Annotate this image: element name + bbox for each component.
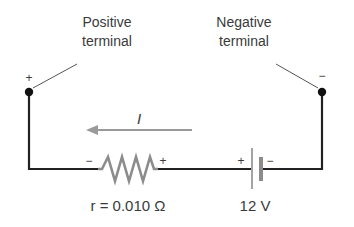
- resistor-zigzag: [98, 157, 158, 181]
- resistor-minus-sign: −: [85, 154, 92, 168]
- battery-minus-sign: −: [266, 154, 273, 168]
- negative-terminal-sign: −: [318, 69, 325, 83]
- positive-terminal-sign: +: [25, 71, 32, 85]
- current-label: I: [137, 110, 141, 127]
- current-arrow-head: [86, 125, 98, 135]
- positive-terminal-dot: [25, 88, 33, 96]
- negative-terminal-label-line2: terminal: [219, 33, 269, 49]
- circuit-diagram: Positive terminal Negative terminal + − …: [0, 0, 354, 227]
- positive-terminal-label-line1: Positive: [82, 14, 131, 30]
- positive-leader-line: [33, 64, 77, 88]
- positive-terminal-label-line2: terminal: [82, 33, 132, 49]
- negative-terminal-label-line1: Negative: [216, 14, 271, 30]
- resistor-label: r = 0.010 Ω: [90, 197, 165, 214]
- battery-label: 12 V: [240, 197, 271, 214]
- negative-leader-line: [276, 64, 318, 88]
- negative-terminal-dot: [318, 88, 326, 96]
- battery-plus-sign: +: [237, 154, 244, 168]
- resistor-plus-sign: +: [159, 154, 166, 168]
